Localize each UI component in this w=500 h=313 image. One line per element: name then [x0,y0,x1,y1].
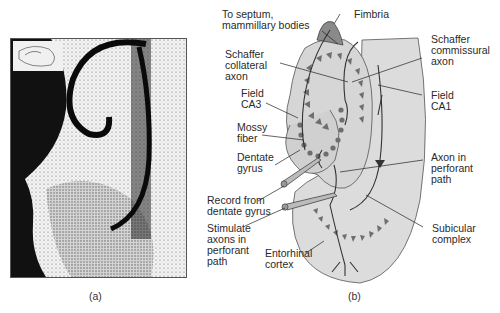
label-subicular: Subicular complex [432,223,476,245]
label-schaffer-commissural: Schaffer commissural axon [431,34,490,67]
label-entorhinal: Entorhinal cortex [265,248,312,270]
label-record: Record from dentate gyrus [207,195,271,217]
caption-b: (b) [348,290,361,302]
label-axon-perforant: Axon in perforant path [431,152,473,185]
label-mossy-fiber: Mossy fiber [237,122,267,144]
label-dentate-gyrus: Dentate gyrus [237,152,274,174]
label-field-ca1: Field CA1 [431,90,454,112]
label-fimbria: Fimbria [354,9,389,20]
label-field-ca3: Field CA3 [241,88,264,110]
label-schaffer-collateral: Schaffer collateral axon [225,49,267,82]
label-septum: To septum, mammillary bodies [222,9,310,31]
label-stimulate: Stimulate axons in perforant path [207,223,251,267]
